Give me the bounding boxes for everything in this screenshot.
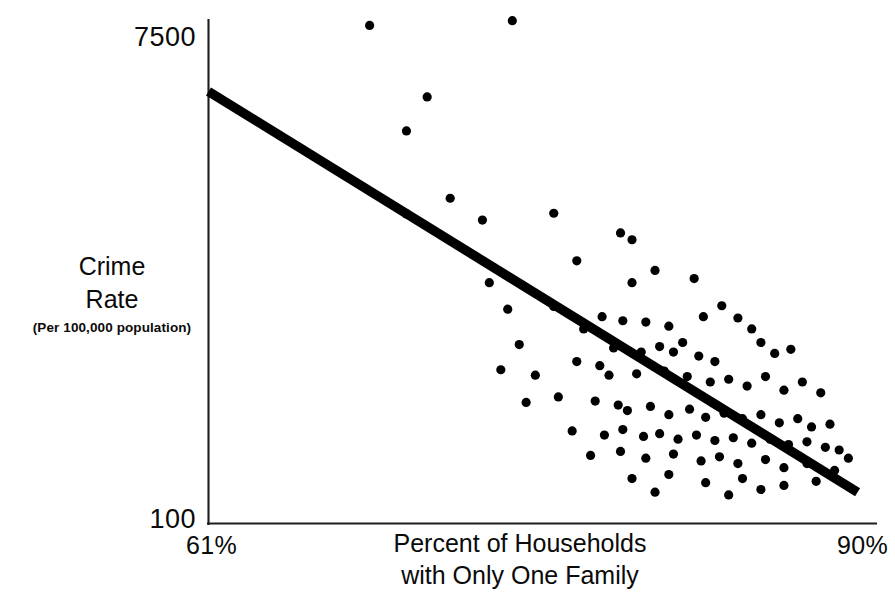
scatter-point	[756, 485, 765, 494]
scatter-point	[710, 436, 719, 445]
scatter-point	[761, 372, 770, 381]
scatter-point	[572, 256, 581, 265]
scatter-point	[650, 266, 659, 275]
scatter-point	[664, 322, 673, 331]
scatter-point	[710, 357, 719, 366]
scatter-point	[423, 92, 432, 101]
scatter-point	[554, 392, 563, 401]
x-axis-tick-label-max: 90%	[790, 531, 888, 559]
scatter-point	[724, 490, 733, 499]
scatter-point	[572, 357, 581, 366]
scatter-point	[802, 437, 811, 446]
scatter-point	[798, 377, 807, 386]
x-axis-title-line2: with Only One Family	[401, 561, 639, 589]
scatter-point	[515, 340, 524, 349]
scatter-point	[669, 450, 678, 459]
scatter-point	[678, 338, 687, 347]
y-axis-tick-label-min: 100	[100, 504, 196, 534]
scatter-point	[692, 430, 701, 439]
scatter-point	[706, 377, 715, 386]
y-axis-title-line1: Crime	[79, 252, 146, 280]
scatter-point	[522, 398, 531, 407]
scatter-point	[646, 402, 655, 411]
scatter-point	[446, 194, 455, 203]
scatter-point	[696, 456, 705, 465]
scatter-point	[478, 215, 487, 224]
scatter-point	[641, 454, 650, 463]
scatter-point	[549, 209, 558, 218]
scatter-chart-figure: 7500 100 CrimeRate (Per 100,000 populati…	[0, 0, 895, 605]
y-axis-tick-label-max: 7500	[100, 22, 196, 52]
scatter-point	[655, 342, 664, 351]
y-axis-title: CrimeRate	[28, 250, 196, 315]
y-axis-title-line2: Rate	[86, 285, 139, 313]
scatter-point	[669, 347, 678, 356]
scatter-point	[595, 361, 604, 370]
scatter-point	[733, 313, 742, 322]
scatter-point	[715, 452, 724, 461]
scatter-point	[825, 420, 834, 429]
scatter-point	[724, 375, 733, 384]
scatter-point	[641, 318, 650, 327]
y-axis-units-note: (Per 100,000 population)	[18, 320, 206, 335]
scatter-point	[717, 301, 726, 310]
scatter-point	[664, 410, 673, 419]
scatter-point	[690, 274, 699, 283]
scatter-point	[779, 463, 788, 472]
scatter-point	[586, 451, 595, 460]
scatter-point	[733, 459, 742, 468]
scatter-point	[786, 345, 795, 354]
regression-trend-line	[209, 91, 858, 492]
scatter-point	[699, 312, 708, 321]
scatter-point	[779, 386, 788, 395]
scatter-point	[627, 474, 636, 483]
scatter-point	[531, 371, 540, 380]
scatter-point	[365, 21, 374, 30]
scatter-point	[485, 278, 494, 287]
scatter-point	[639, 432, 648, 441]
x-axis-title: Percent of Householdswith Only One Famil…	[300, 528, 740, 591]
scatter-point	[632, 369, 641, 378]
scatter-point	[508, 16, 517, 25]
axes-group	[208, 20, 876, 524]
scatter-point	[694, 352, 703, 361]
scatter-point	[496, 365, 505, 374]
scatter-point	[616, 447, 625, 456]
x-axis-title-line1: Percent of Households	[394, 529, 647, 557]
scatter-point	[812, 477, 821, 486]
x-axis-tick-label-min: 61%	[186, 531, 276, 559]
scatter-point	[807, 422, 816, 431]
data-points-group	[365, 16, 853, 499]
scatter-point	[747, 324, 756, 333]
scatter-point	[627, 278, 636, 287]
scatter-point	[614, 401, 623, 410]
scatter-point	[779, 481, 788, 490]
scatter-point	[701, 478, 710, 487]
scatter-point	[761, 455, 770, 464]
scatter-point	[597, 312, 606, 321]
scatter-point	[618, 425, 627, 434]
scatter-point	[816, 388, 825, 397]
scatter-point	[844, 454, 853, 463]
scatter-point	[616, 228, 625, 237]
scatter-point	[701, 413, 710, 422]
scatter-point	[604, 371, 613, 380]
scatter-point	[770, 349, 779, 358]
scatter-point	[664, 470, 673, 479]
scatter-point	[627, 235, 636, 244]
scatter-point	[650, 488, 659, 497]
scatter-point	[685, 405, 694, 414]
scatter-point	[747, 439, 756, 448]
scatter-point	[655, 429, 664, 438]
scatter-point	[729, 433, 738, 442]
scatter-point	[835, 445, 844, 454]
scatter-point	[402, 126, 411, 135]
scatter-point	[618, 316, 627, 325]
scatter-point	[623, 406, 632, 415]
scatter-point	[503, 305, 512, 314]
scatter-point	[568, 426, 577, 435]
scatter-point	[591, 396, 600, 405]
scatter-point	[821, 443, 830, 452]
scatter-point	[775, 418, 784, 427]
scatter-point	[743, 381, 752, 390]
